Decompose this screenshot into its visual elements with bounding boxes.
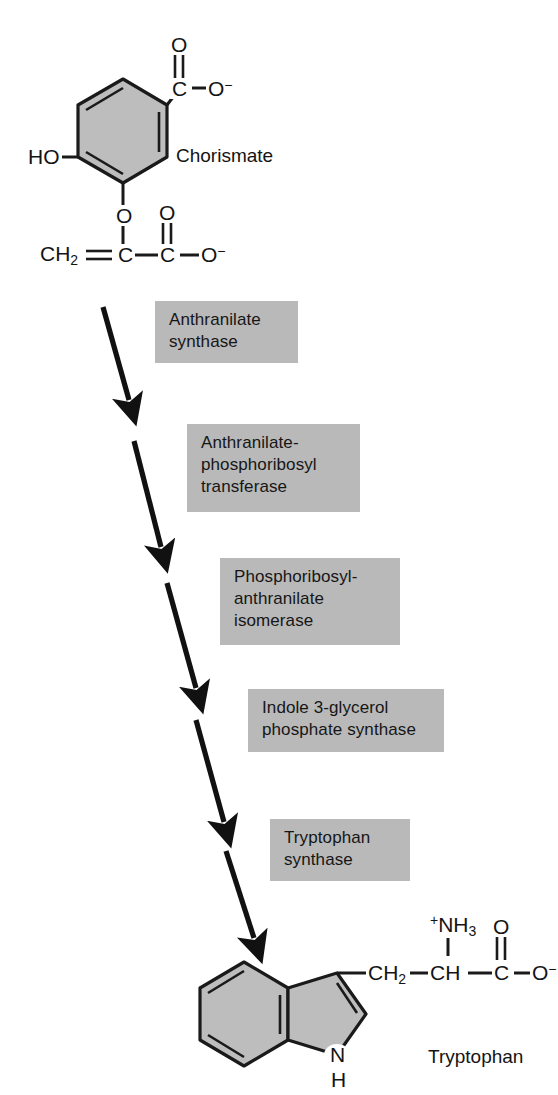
chorismate-acid-carbonyl-oxygen: O — [157, 202, 177, 223]
tryptophan-indole-nitrogen: N — [328, 1044, 347, 1065]
chorismate-hydroxyl: HO — [26, 146, 62, 167]
tryptophan-indole-nh-hydrogen: H — [329, 1069, 348, 1090]
enzyme-box-anthranilate-phosphoribosyl-transferase[interactable]: Anthranilate- phosphoribosyl transferase — [187, 424, 360, 512]
tryptophan-carbonyl-oxygen: O — [491, 916, 511, 937]
enzyme-box-tryptophan-synthase[interactable]: Tryptophan synthase — [270, 819, 410, 881]
enzyme-box-anthranilate-synthase[interactable]: Anthranilate synthase — [155, 301, 298, 363]
pathway-figure: O C O− HO O CH2 C O C O− Chorismate Anth… — [0, 0, 558, 1095]
chorismate-acid-charge: − — [217, 243, 225, 259]
chorismate-carboxylate-charge: − — [224, 77, 232, 93]
tryptophan-name-label: Tryptophan — [428, 1046, 523, 1068]
reaction-arrow-1 — [103, 307, 129, 400]
reaction-arrow-2 — [134, 441, 161, 547]
chorismate-carboxylate-oxygen: O− — [206, 78, 235, 99]
tryptophan-amino-charge: + — [430, 912, 438, 928]
chorismate-carboxyl-carbon: C — [170, 78, 189, 99]
chorismate-acid-oxyanion: O− — [199, 244, 228, 265]
chorismate-ether-oxygen: O — [114, 205, 134, 226]
chorismate-ring — [78, 79, 167, 183]
chorismate-enol-methylene: CH2 — [38, 243, 80, 267]
tryptophan-carboxylate-charge: − — [548, 961, 556, 977]
reaction-arrow-4 — [196, 720, 224, 822]
enzyme-box-phosphoribosyl-anthranilate-isomerase[interactable]: Phosphoribosyl- anthranilate isomerase — [220, 558, 400, 645]
chorismate-acid-carbon: C — [158, 244, 177, 265]
tryptophan-methylene: CH2 — [366, 962, 408, 986]
enzyme-box-indole-3-glycerol-phosphate-synthase[interactable]: Indole 3-glycerol phosphate synthase — [248, 689, 444, 752]
reaction-arrow-3 — [167, 583, 196, 688]
chorismate-name-label: Chorismate — [176, 145, 273, 167]
reaction-arrow-5 — [226, 851, 254, 938]
tryptophan-alpha-carbon: CH — [428, 962, 462, 983]
tryptophan-carboxylate-oxygen: O− — [530, 962, 557, 983]
tryptophan-carboxyl-carbon: C — [492, 962, 511, 983]
chorismate-carbonyl-oxygen: O — [169, 34, 189, 55]
chorismate-enol-carbon: C — [116, 244, 135, 265]
tryptophan-amino-group: +NH3 — [428, 913, 478, 938]
